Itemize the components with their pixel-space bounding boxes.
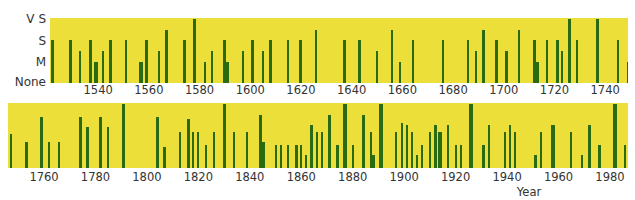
bar-1905 bbox=[416, 155, 418, 168]
x-tick-1640: 1640 bbox=[337, 84, 366, 96]
bar-1643 bbox=[358, 40, 361, 83]
bar-1545 bbox=[109, 40, 112, 83]
bar-1620 bbox=[299, 40, 302, 83]
bar-1939 bbox=[504, 132, 506, 168]
bar-1749 bbox=[627, 62, 628, 83]
bar-1582 bbox=[204, 62, 206, 83]
x-tick-1840: 1840 bbox=[235, 171, 264, 183]
bar-1533 bbox=[79, 51, 81, 83]
bar-1597 bbox=[242, 51, 244, 83]
bar-1774 bbox=[79, 117, 82, 168]
bar-1958 bbox=[551, 125, 555, 168]
bar-1747 bbox=[10, 134, 12, 168]
bar-1941 bbox=[509, 125, 511, 168]
bar-1969 bbox=[581, 155, 583, 168]
bar-1982 bbox=[613, 104, 617, 168]
x-tick-1980: 1980 bbox=[595, 171, 624, 183]
x-tick-1780: 1780 bbox=[81, 171, 110, 183]
x-tick-1880: 1880 bbox=[338, 171, 367, 183]
y-label-none: None bbox=[0, 76, 46, 88]
y-label-very-severe: V S bbox=[0, 13, 46, 25]
bar-1823 bbox=[205, 145, 207, 168]
x-tick-1820: 1820 bbox=[184, 171, 213, 183]
bar-1542 bbox=[102, 51, 104, 83]
x-tick-1660: 1660 bbox=[388, 84, 417, 96]
bar-1855 bbox=[287, 145, 289, 168]
bar-1845 bbox=[261, 142, 265, 168]
bar-1721 bbox=[556, 40, 559, 83]
bar-1557 bbox=[139, 62, 143, 83]
bar-1888 bbox=[371, 155, 375, 168]
x-tick-1800: 1800 bbox=[132, 171, 161, 183]
x-tick-1580: 1580 bbox=[185, 84, 214, 96]
bar-1818 bbox=[192, 132, 194, 168]
bar-1953 bbox=[540, 132, 542, 168]
bar-1914 bbox=[438, 132, 442, 168]
bar-1726 bbox=[568, 19, 571, 83]
panel-top-1521-1749 bbox=[50, 18, 628, 83]
bar-1701 bbox=[505, 51, 508, 83]
bar-1891 bbox=[379, 104, 383, 168]
bar-1862 bbox=[305, 155, 307, 168]
bar-1820 bbox=[197, 132, 199, 168]
bar-1608 bbox=[269, 40, 272, 83]
bar-1729 bbox=[576, 40, 578, 83]
bar-1830 bbox=[223, 104, 226, 168]
bar-1933 bbox=[488, 125, 490, 168]
bar-1871 bbox=[328, 115, 331, 168]
bar-1922 bbox=[460, 145, 462, 168]
bar-1759 bbox=[40, 117, 43, 168]
bar-1676 bbox=[442, 40, 444, 83]
bar-1920 bbox=[455, 145, 457, 168]
bar-1753 bbox=[25, 142, 28, 168]
x-tick-1700: 1700 bbox=[489, 84, 518, 96]
bar-1539 bbox=[94, 62, 98, 83]
bar-1637 bbox=[343, 40, 346, 83]
bar-1601 bbox=[251, 40, 254, 83]
bar-1574 bbox=[183, 40, 186, 83]
bar-1689 bbox=[475, 51, 477, 83]
bar-1791 bbox=[122, 104, 125, 168]
bar-1877 bbox=[343, 104, 347, 168]
x-tick-1560: 1560 bbox=[134, 84, 163, 96]
bar-1697 bbox=[495, 40, 498, 83]
bar-1656 bbox=[391, 30, 393, 83]
bar-1834 bbox=[233, 132, 235, 168]
x-tick-1900: 1900 bbox=[390, 171, 419, 183]
bar-1578 bbox=[193, 19, 196, 83]
bar-1559 bbox=[145, 40, 148, 83]
bar-1816 bbox=[187, 119, 190, 168]
bar-1551 bbox=[125, 40, 127, 83]
bar-1650 bbox=[376, 51, 378, 83]
bar-1860 bbox=[300, 145, 302, 168]
bar-1897 bbox=[395, 132, 397, 168]
bar-1626 bbox=[315, 30, 317, 83]
bar-1943 bbox=[514, 132, 516, 168]
bar-1858 bbox=[295, 145, 298, 168]
bar-1917 bbox=[447, 125, 449, 168]
bar-1615 bbox=[287, 40, 289, 83]
x-tick-1600: 1600 bbox=[236, 84, 265, 96]
x-tick-1740: 1740 bbox=[591, 84, 620, 96]
bar-1659 bbox=[399, 62, 401, 83]
bar-1986 bbox=[624, 145, 626, 168]
bar-1839 bbox=[246, 132, 248, 168]
x-axis-title: Year bbox=[517, 186, 541, 198]
x-tick-1680: 1680 bbox=[438, 84, 467, 96]
x-tick-1860: 1860 bbox=[287, 171, 316, 183]
x-tick-1960: 1960 bbox=[544, 171, 573, 183]
panel-bottom-1746-1987 bbox=[8, 103, 628, 168]
bar-1813 bbox=[179, 132, 181, 168]
bar-1664 bbox=[412, 40, 414, 83]
bar-1866 bbox=[316, 132, 318, 168]
bar-1737 bbox=[596, 19, 599, 83]
bar-1864 bbox=[310, 125, 313, 168]
y-label-moderate: M bbox=[0, 56, 46, 68]
x-tick-1620: 1620 bbox=[286, 84, 315, 96]
bar-1965 bbox=[570, 132, 572, 168]
bar-1591 bbox=[226, 62, 229, 83]
bar-1766 bbox=[58, 142, 60, 168]
bar-1745 bbox=[617, 40, 619, 83]
bar-1926 bbox=[469, 104, 473, 168]
bar-1901 bbox=[406, 125, 408, 168]
